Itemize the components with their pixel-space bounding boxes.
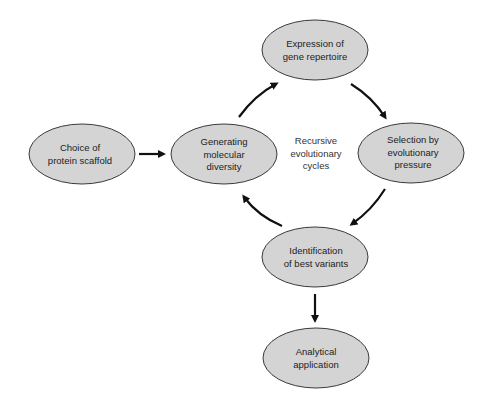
label-line: pressure <box>387 159 439 172</box>
label-line: Analytical <box>293 346 338 359</box>
label-generating: Generating molecular diversity <box>200 136 247 174</box>
label-line: Choice of <box>48 142 112 155</box>
label-line: protein scaffold <box>48 154 112 167</box>
arrow-expression-to-selection <box>351 84 385 117</box>
label-line: application <box>293 358 338 371</box>
label-line: gene repertoire <box>283 50 347 63</box>
arrow-identification-to-generating <box>244 197 282 226</box>
diagram-canvas <box>0 0 489 406</box>
label-choice: Choice of protein scaffold <box>48 142 112 167</box>
label-line: evolutionary <box>290 148 341 161</box>
label-line: of best variants <box>284 257 348 270</box>
label-line: molecular <box>200 149 247 162</box>
label-line: Recursive <box>290 135 341 148</box>
label-line: Identification <box>284 245 348 258</box>
label-selection: Selection by evolutionary pressure <box>387 134 439 172</box>
label-analytical: Analytical application <box>293 346 338 371</box>
label-line: evolutionary <box>387 147 439 160</box>
label-expression: Expression of gene repertoire <box>283 38 347 63</box>
label-line: Selection by <box>387 134 439 147</box>
arrow-generating-to-expression <box>239 84 276 117</box>
label-identification: Identification of best variants <box>284 245 348 270</box>
label-line: cycles <box>290 160 341 173</box>
label-line: Generating <box>200 136 247 149</box>
label-line: Expression of <box>283 38 347 51</box>
arrow-selection-to-identification <box>352 189 385 224</box>
center-label: Recursive evolutionary cycles <box>290 135 341 173</box>
label-line: diversity <box>200 161 247 174</box>
